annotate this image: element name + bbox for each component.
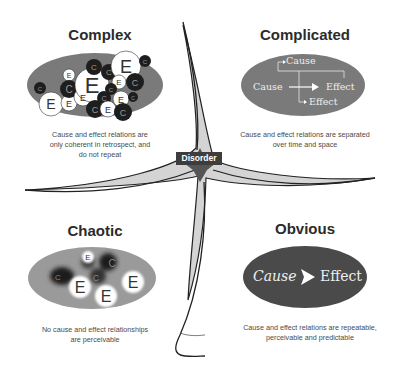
svg-text:C: C (143, 59, 148, 65)
complicated-title: Complicated (250, 26, 360, 43)
svg-text:E: E (120, 57, 132, 77)
complicated-effect-bottom-label: Effect (309, 96, 337, 107)
svg-text:C: C (91, 63, 97, 72)
complex-illustration: E E E E E E E E E C C C C C C C C C C C (27, 51, 163, 121)
svg-text:C: C (65, 84, 72, 95)
svg-text:E: E (101, 288, 112, 305)
svg-text:C: C (55, 273, 61, 282)
svg-text:C: C (132, 78, 139, 88)
svg-text:E: E (67, 72, 72, 79)
chaotic-illustration: E E E E C C C (28, 247, 156, 309)
svg-text:E: E (128, 274, 139, 291)
svg-text:C: C (92, 105, 99, 115)
complex-title: Complex (45, 26, 155, 43)
complex-description: Cause and effect relations are only cohe… (20, 130, 180, 160)
complicated-cause-top-label: Cause (286, 55, 316, 66)
svg-text:E: E (105, 105, 111, 115)
svg-text:C: C (120, 108, 127, 118)
svg-text:E: E (85, 253, 90, 262)
svg-text:E: E (116, 78, 121, 87)
disorder-label: Disorder (176, 152, 222, 165)
svg-text:E: E (66, 99, 72, 109)
complicated-description: Cause and effect relations are separated… (220, 130, 390, 150)
chaotic-description: No cause and effect relationships are pe… (15, 325, 175, 345)
svg-text:C: C (93, 273, 100, 283)
svg-text:C: C (131, 95, 135, 101)
obvious-description: Cause and effect relations are repeatabl… (225, 323, 395, 343)
svg-text:E: E (85, 73, 100, 98)
cynefin-diagram: E E E E E E E E E C C C C C C C C C C C (0, 0, 400, 375)
svg-text:E: E (46, 96, 55, 112)
obvious-cause-label: Cause (253, 268, 297, 284)
obvious-title: Obvious (250, 220, 360, 237)
svg-text:E: E (75, 279, 86, 296)
chaotic-title: Chaotic (40, 222, 150, 239)
svg-text:E: E (118, 95, 124, 105)
svg-text:C: C (101, 95, 106, 102)
svg-text:C: C (38, 86, 43, 92)
complicated-effect-right-label: Effect (326, 81, 354, 92)
svg-text:C: C (106, 68, 112, 77)
obvious-effect-label: Effect (320, 268, 362, 284)
complicated-cause-left-label: Cause (253, 81, 283, 92)
svg-text:C: C (108, 258, 115, 269)
svg-text:C: C (109, 87, 114, 93)
